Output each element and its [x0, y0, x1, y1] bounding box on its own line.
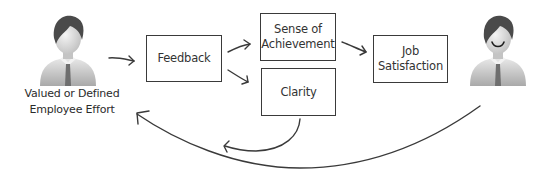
feedback-label: Feedback [157, 51, 210, 66]
arrow-achievement-to-satisfaction [342, 42, 366, 52]
sense-of-achievement-box: Sense of Achievement [260, 13, 336, 61]
sense-of-achievement-label: Sense of Achievement [261, 22, 334, 52]
employee-effort-label: Valued or Defined Employee Effort [14, 86, 130, 118]
feedback-box: Feedback [146, 35, 222, 82]
smiling-person-icon [466, 10, 530, 86]
clarity-box: Clarity [261, 68, 336, 116]
arrow-feedback-to-achievement [228, 44, 250, 52]
arrow-feedback-to-clarity [228, 70, 248, 82]
job-satisfaction-label: Job Satisfaction [378, 44, 443, 74]
clarity-label: Clarity [280, 85, 316, 100]
employee-person-icon [36, 10, 100, 86]
arrow-employee-to-feedback [109, 58, 134, 61]
job-satisfaction-box: Job Satisfaction [373, 35, 448, 83]
arrow-clarity-to-employee [225, 119, 300, 151]
